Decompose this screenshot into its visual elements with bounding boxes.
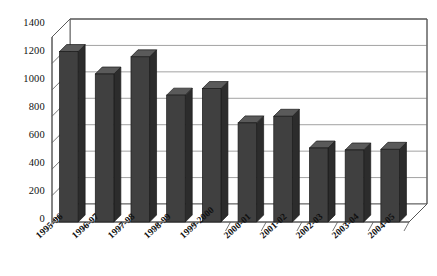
bar-chart: 1400 1200 1000 800 600 400 200 0 1995-96… bbox=[0, 0, 437, 276]
bar bbox=[131, 50, 157, 222]
bar bbox=[60, 45, 86, 222]
bar bbox=[345, 143, 371, 222]
bar bbox=[95, 67, 121, 222]
bar bbox=[167, 88, 193, 222]
bar bbox=[309, 141, 335, 222]
bar bbox=[381, 142, 407, 222]
bar bbox=[202, 82, 228, 222]
bar bbox=[238, 116, 264, 222]
bar bbox=[274, 109, 300, 222]
